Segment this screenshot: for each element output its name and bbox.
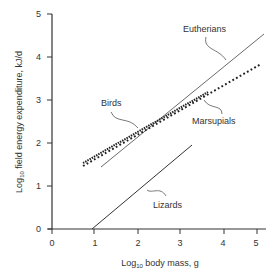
y-axis-title: Log10 field energy expenditure, kJ/d: [14, 51, 25, 193]
label-lizards: Lizards: [153, 200, 183, 210]
y-tick-5: 5: [36, 9, 41, 19]
label-eutherians: Eutherians: [183, 24, 227, 34]
eutherians-leader: [206, 37, 226, 60]
y-tick-0: 0: [36, 224, 41, 234]
label-birds: Birds: [101, 98, 122, 108]
series-marsupials: [83, 64, 261, 166]
y-tick-4: 4: [36, 52, 41, 62]
series-eutherians: [101, 34, 264, 167]
x-tick-1: 1: [92, 238, 97, 248]
x-ticks: 0 1 2 3 4 5: [49, 229, 258, 248]
marsupials-leader: [204, 100, 222, 114]
x-tick-4: 4: [220, 238, 225, 248]
lizards-leader: [147, 190, 166, 196]
y-tick-1: 1: [36, 181, 41, 191]
y-tick-3: 3: [36, 95, 41, 105]
label-marsupials: Marsupials: [192, 116, 236, 126]
x-tick-5: 5: [253, 238, 258, 248]
x-axis-title: Log10 body mass, g: [121, 258, 199, 269]
x-tick-3: 3: [177, 238, 182, 248]
chart: 0 1 2 3 4 5 0 1 2 3 4 5 Eutherians Birds…: [0, 0, 274, 280]
series-lizards: [92, 145, 192, 229]
y-ticks: 0 1 2 3 4 5: [36, 9, 52, 234]
y-tick-2: 2: [36, 138, 41, 148]
x-tick-0: 0: [49, 238, 54, 248]
birds-leader: [111, 112, 138, 128]
x-tick-2: 2: [135, 238, 140, 248]
